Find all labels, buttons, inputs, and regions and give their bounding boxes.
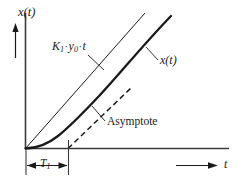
right-arrow-icon: [59, 162, 68, 168]
left-arrow-icon: [27, 162, 36, 168]
leader-line-asymptote: [92, 106, 105, 121]
time-constant-label: T1: [40, 158, 50, 171]
curve-xt: [26, 16, 172, 149]
up-arrow-icon: [12, 23, 18, 58]
leader-line-xt: [146, 47, 158, 60]
right-arrow-icon: [176, 162, 218, 169]
plot-canvas: [0, 0, 240, 185]
asymptote-label: Asymptote: [107, 116, 157, 128]
x-axis-label: t: [224, 158, 227, 170]
straight-line-label: K1·y0·t: [52, 40, 86, 54]
straight-line-k1y0t: [26, 13, 146, 149]
figure-container: x(t) K1·y0·t x(t) Asymptote t T1: [0, 0, 240, 185]
time-constant-symbol-sub: 1: [46, 162, 50, 171]
straight-line-label-variable: t: [83, 39, 86, 53]
curve-label: x(t): [160, 54, 177, 66]
y-axis-label: x(t): [18, 6, 35, 19]
straight-line-label-symbol: K: [52, 39, 60, 53]
